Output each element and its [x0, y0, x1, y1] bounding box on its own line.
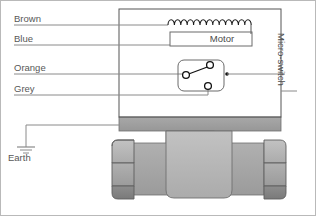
micro-switch-label: Micro-switch — [276, 33, 287, 86]
micro-switch-symbol — [178, 60, 229, 91]
wire-label-earth: Earth — [8, 152, 31, 163]
wire-label-grey: Grey — [14, 83, 35, 94]
motor-label: Motor — [172, 33, 272, 44]
wiring-diagram: Brown Blue Orange Grey Earth Motor Micro… — [0, 0, 317, 217]
wire-label-blue: Blue — [14, 33, 33, 44]
wire-label-brown: Brown — [14, 13, 41, 24]
wire-grey — [14, 90, 208, 95]
micro-switch-common — [183, 72, 190, 79]
micro-switch-top-terminal — [207, 62, 214, 69]
wire-label-orange: Orange — [14, 62, 46, 73]
micro-switch-normally-open — [205, 83, 212, 90]
wire-earth — [26, 125, 119, 147]
